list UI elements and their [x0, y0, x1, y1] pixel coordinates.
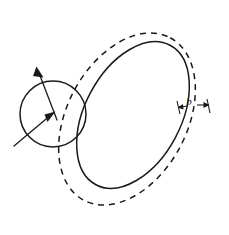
- up-left-arrow-head: [33, 67, 44, 78]
- outer-dashed-ellipse-path: [31, 10, 223, 229]
- inner-solid-ellipse-path: [54, 23, 213, 208]
- up-left-arrow: [33, 67, 57, 121]
- gap-label-b: b: [186, 95, 192, 107]
- outer-dashed-ellipse: [31, 10, 223, 229]
- up-right-arrow-head: [45, 112, 56, 123]
- figure-canvas: b: [0, 0, 229, 235]
- diagram-svg: b: [0, 0, 229, 235]
- inner-solid-ellipse: [54, 23, 213, 208]
